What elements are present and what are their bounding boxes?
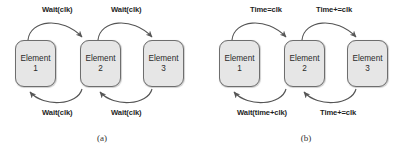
node-label-index: 1: [33, 64, 38, 73]
node-label-index: 1: [237, 64, 242, 73]
arrow-bottom-2-1: [234, 89, 286, 103]
edge-label-top-right: Wait(clk): [111, 5, 141, 14]
panel-caption-b: (b): [204, 133, 408, 143]
arrow-top-2-3: [302, 23, 356, 40]
node-label-index: 2: [302, 64, 307, 73]
arrow-top-1-2: [232, 23, 286, 40]
edge-label-bottom-right: Wait(clk): [111, 108, 141, 117]
node-label-name: Element: [148, 54, 178, 63]
node-element-3: Element 3: [347, 40, 388, 87]
edge-label-bottom-left: Wait(time+clk): [237, 108, 287, 117]
edge-label-bottom-left: Wait(clk): [42, 108, 72, 117]
edge-label-bottom-right: Time+=clk: [320, 108, 356, 117]
node-label-name: Element: [20, 54, 50, 63]
node-label-name: Element: [224, 54, 254, 63]
node-label-name: Element: [352, 54, 382, 63]
panel-a: Element 1 Element 2 Element 3 Wait(clk) …: [0, 0, 204, 147]
node-label-index: 3: [365, 64, 370, 73]
node-label-name: Element: [85, 54, 115, 63]
arrow-bottom-3-2: [100, 89, 152, 103]
edge-label-top-left: Time=clk: [250, 5, 282, 14]
node-element-1: Element 1: [15, 40, 56, 87]
edge-label-top-left: Wait(clk): [42, 5, 72, 14]
node-element-2: Element 2: [284, 40, 325, 87]
node-element-3: Element 3: [143, 40, 184, 87]
node-element-2: Element 2: [80, 40, 121, 87]
arrow-bottom-3-2: [304, 89, 356, 103]
panel-caption-a: (a): [0, 133, 204, 143]
edge-label-top-right: Time+=clk: [316, 5, 352, 14]
panel-b: Element 1 Element 2 Element 3 Time=clk T…: [204, 0, 408, 147]
figure-root: Element 1 Element 2 Element 3 Wait(clk) …: [0, 0, 408, 147]
node-label-index: 3: [161, 64, 166, 73]
arrow-top-1-2: [28, 23, 82, 40]
arrow-top-2-3: [98, 23, 152, 40]
arrow-bottom-2-1: [30, 89, 82, 103]
node-label-index: 2: [98, 64, 103, 73]
node-element-1: Element 1: [219, 40, 260, 87]
node-label-name: Element: [289, 54, 319, 63]
